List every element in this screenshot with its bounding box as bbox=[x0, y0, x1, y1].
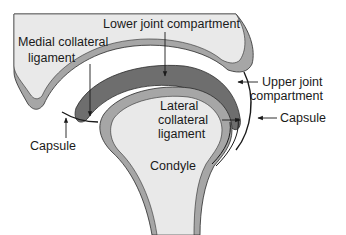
label-lateral-2: collateral bbox=[158, 113, 208, 127]
label-medial-collateral-ligament-2: ligament bbox=[28, 51, 76, 65]
label-condyle: Condyle bbox=[150, 159, 196, 173]
label-medial-collateral-ligament-1: Medial collateral bbox=[18, 35, 108, 49]
label-capsule-right: Capsule bbox=[280, 111, 326, 125]
label-upper-joint-compartment-2: compartment bbox=[250, 89, 323, 103]
label-lateral-1: Lateral bbox=[160, 99, 198, 113]
tmj-diagram: Lower joint compartment Medial collatera… bbox=[0, 0, 346, 235]
label-upper-joint-compartment-1: Upper joint bbox=[262, 75, 323, 89]
label-capsule-left: Capsule bbox=[30, 139, 76, 153]
diagram-canvas: Lower joint compartment Medial collatera… bbox=[0, 0, 346, 235]
label-lateral-3: ligament bbox=[158, 127, 206, 141]
label-lower-joint-compartment: Lower joint compartment bbox=[103, 17, 240, 31]
